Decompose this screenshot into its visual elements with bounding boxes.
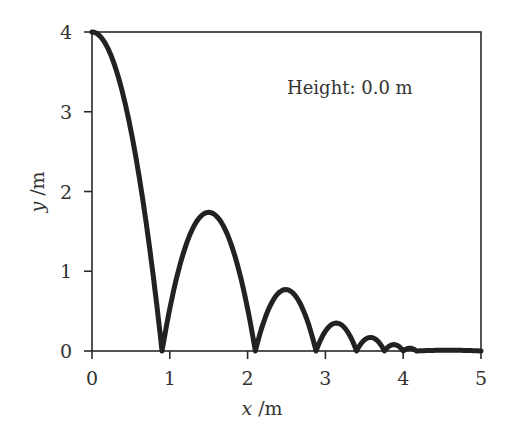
chart: 012345 01234 Height: 0.0 m x /m y /m [0, 0, 508, 444]
y-tick-label: 0 [60, 340, 72, 362]
x-tick-label: 2 [242, 367, 254, 389]
x-tick-label: 4 [397, 367, 409, 389]
y-tick-label: 1 [60, 260, 72, 282]
x-tick-label: 1 [164, 367, 176, 389]
y-tick-label: 2 [60, 181, 72, 203]
y-axis-ticks: 01234 [60, 21, 92, 362]
x-tick-label: 3 [319, 367, 331, 389]
height-annotation: Height: 0.0 m [287, 77, 413, 98]
y-tick-label: 3 [60, 101, 72, 123]
y-axis-label: y /m [26, 171, 48, 213]
x-tick-label: 5 [475, 367, 487, 389]
x-tick-label: 0 [86, 367, 98, 389]
x-axis-ticks: 012345 [86, 351, 487, 389]
y-tick-label: 4 [60, 21, 72, 43]
x-axis-label: x /m [241, 397, 282, 419]
